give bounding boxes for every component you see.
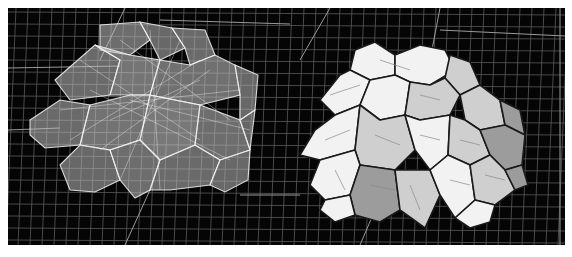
render-canvas (0, 0, 572, 257)
render-figure (0, 0, 572, 257)
solid-face (350, 165, 400, 222)
